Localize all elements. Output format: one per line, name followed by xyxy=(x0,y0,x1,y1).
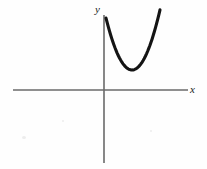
scan-artifact xyxy=(150,130,152,132)
axes-group xyxy=(13,15,188,163)
coordinate-plane-svg xyxy=(0,0,207,169)
x-axis-label: x xyxy=(190,84,195,95)
scan-artifact xyxy=(22,136,26,139)
y-axis-label: y xyxy=(95,4,100,15)
curve-group xyxy=(106,10,160,70)
parabola-curve xyxy=(106,10,160,70)
graph-figure: y x xyxy=(0,0,207,169)
scan-artifact xyxy=(62,120,64,122)
